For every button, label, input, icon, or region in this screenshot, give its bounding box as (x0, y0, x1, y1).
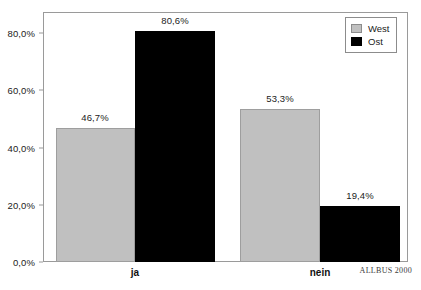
legend-entry-ost: Ost (351, 35, 389, 48)
bar-value-label-nein-ost: 19,4% (346, 190, 373, 201)
bar-chart: 80,0% 60,0% 40,0% 20,0% 0,0% 46,7% 80,6%… (0, 0, 421, 290)
bar-ja-ost (135, 31, 215, 262)
bar-value-label-ja-ost: 80,6% (161, 15, 188, 26)
bar-value-label-nein-west: 53,3% (266, 93, 293, 104)
bar-ja-west (56, 128, 135, 262)
legend-label-west: West (368, 23, 389, 34)
bar-nein-west (240, 109, 320, 262)
bar-value-label-ja-west: 46,7% (81, 112, 108, 123)
legend-entry-west: West (351, 22, 389, 35)
bar-nein-ost (320, 206, 400, 262)
source-note: ALLBUS 2000 (360, 266, 412, 275)
category-label-ja: ja (131, 267, 139, 278)
legend-label-ost: Ost (368, 36, 383, 47)
legend-swatch-west-icon (351, 24, 362, 33)
legend: West Ost (345, 17, 397, 53)
category-label-nein: nein (310, 267, 331, 278)
legend-swatch-ost-icon (351, 37, 362, 46)
